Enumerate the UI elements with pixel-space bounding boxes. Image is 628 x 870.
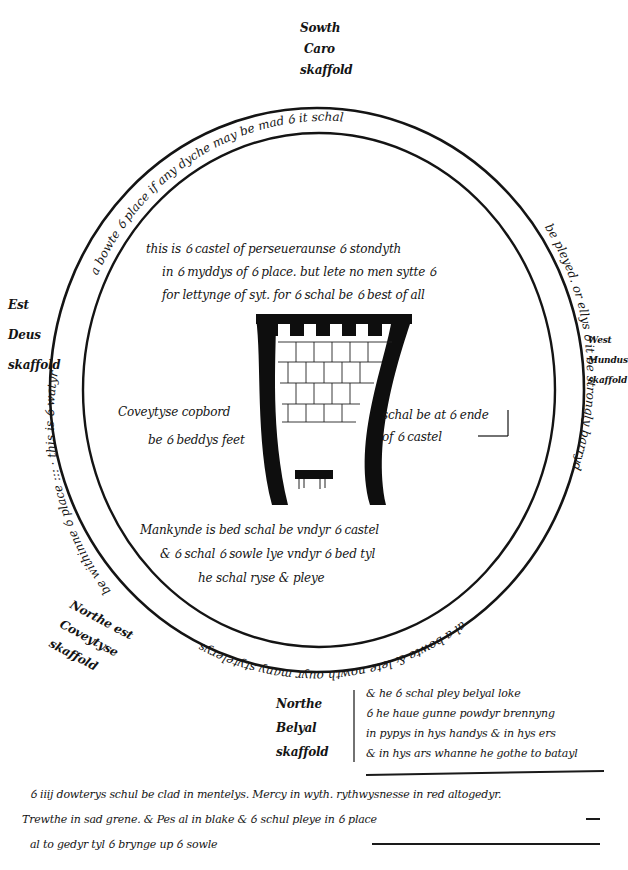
dash-rule [586, 818, 600, 820]
scaffold-south-line: Caro [304, 39, 353, 60]
note-line: Mankynde is bed schal be vndyr ỽ castel [140, 518, 379, 542]
scaffold-west-line: Mundus [588, 350, 628, 370]
scaffold-north-line: Northe [276, 692, 329, 716]
note-line: & in hys ars whanne he gothe to batayl [366, 744, 578, 764]
note-line: be ỽ beddys feet [148, 426, 245, 454]
castle-note-coveytyse-copbord: Coveytyse copbord be ỽ beddys feet [118, 398, 245, 454]
line-end-rule [372, 843, 600, 845]
castle-note-top: this is ỽ castel of perseueraunse ỽ ston… [146, 238, 436, 307]
scaffold-label-north: Northe Belyal skaffold [276, 692, 329, 764]
footer-note-four-daughters: ỽ iiij dowterys schul be clad in mentely… [22, 782, 501, 857]
note-line: ỽ he haue gunne powdyr brennyng [366, 704, 578, 724]
scaffold-east-line: skaffold [8, 350, 61, 380]
note-line: Coveytyse copbord [118, 398, 245, 426]
note-line: in ỽ myddys of ỽ place. but lete no men … [162, 261, 436, 284]
note-line: in pypys in hys handys & in hys ers [366, 724, 578, 744]
scaffold-west-line: skaffold [588, 370, 628, 390]
scaffold-label-east: Est Deus skaffold [8, 290, 61, 380]
note-line: this is ỽ castel of perseueraunse ỽ ston… [146, 238, 436, 261]
scaffold-north-line: Belyal [276, 716, 329, 740]
note-line: of ỽ castel [382, 426, 489, 448]
note-line: al to gedyr tyl ỽ brynge up ỽ sowle [30, 832, 501, 857]
svg-text:al a bowte & lete nowth ouyr m: al a bowte & lete nowth ouyr many stytel… [196, 619, 469, 683]
note-line: schal be at ỽ ende [382, 404, 489, 426]
note-line: & he ỽ schal pley belyal loke [366, 684, 578, 704]
scaffold-south-line: Sowth [300, 18, 353, 39]
note-line: ỽ iiij dowterys schul be clad in mentely… [30, 782, 501, 807]
scaffold-south-line: skaffold [300, 60, 353, 81]
scaffold-west-line: West [588, 330, 628, 350]
ring-text-left: be withinne ỽ place ::: · this is ỽ waty… [43, 369, 114, 598]
note-line: Trewthe in sad grene. & Pes al in blake … [22, 807, 501, 832]
note-line: he schal ryse & pleye [198, 566, 379, 590]
scaffold-east-line: Deus [8, 320, 61, 350]
scaffold-east-line: Est [8, 290, 61, 320]
ring-text-bottom: al a bowte & lete nowth ouyr many stytel… [196, 619, 469, 683]
scaffold-label-south: Sowth Caro skaffold [300, 18, 353, 81]
scaffold-label-west: West Mundus skaffold [588, 330, 628, 390]
castle-note-mankynde-bed: Mankynde is bed schal be vndyr ỽ castel … [140, 518, 379, 590]
note-line: for lettynge of syt. for ỽ schal be ỽ be… [162, 284, 436, 307]
svg-text:be withinne ỽ place ::: · this: be withinne ỽ place ::: · this is ỽ waty… [43, 369, 114, 598]
scaffold-north-line: skaffold [276, 740, 329, 764]
belyal-side-note: & he ỽ schal pley belyal loke ỽ he haue … [366, 684, 578, 764]
castle-note-castle-end: schal be at ỽ ende of ỽ castel [382, 404, 489, 448]
note-line: & ỽ schal ỽ sowle lye vndyr ỽ bed tyl [160, 542, 379, 566]
